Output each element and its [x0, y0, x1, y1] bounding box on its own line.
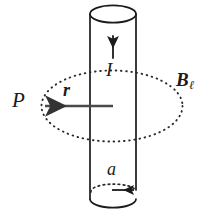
label-radius-a: a [107, 160, 116, 178]
cylinder-top-ellipse [90, 5, 136, 22]
physics-diagram-figure: P r I a Bℓ [0, 0, 221, 213]
label-field-b: Bℓ [176, 70, 194, 91]
label-current-i: I [106, 60, 112, 79]
label-field-b-symbol: B [176, 69, 189, 90]
label-field-b-subscript: ℓ [189, 78, 195, 92]
diagram-canvas [0, 0, 221, 213]
label-radius-r: r [63, 81, 70, 99]
cylinder-bottom-front-arc [90, 199, 136, 208]
label-point-p: P [12, 90, 25, 111]
